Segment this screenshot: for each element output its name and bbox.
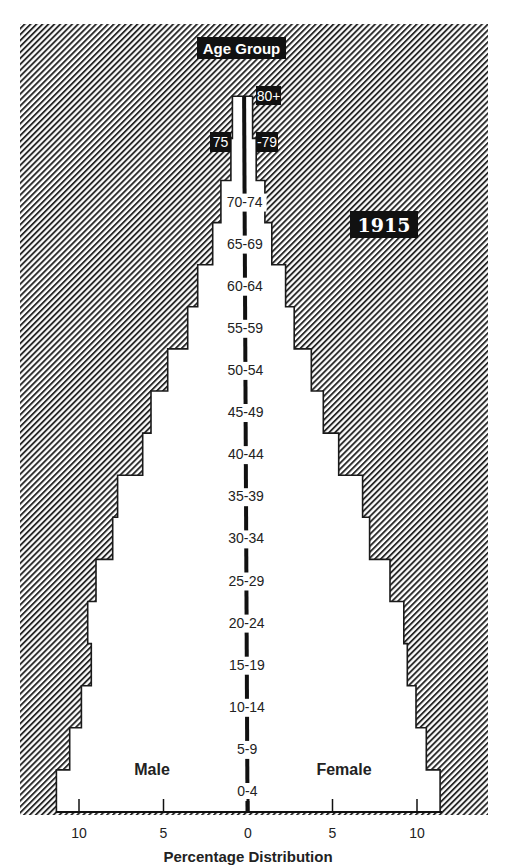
svg-text:-79: -79 (257, 134, 277, 150)
label-80-plus: 80+ (256, 86, 281, 105)
year-label: 1915 (350, 211, 418, 238)
age-label-25-29: 25-29 (228, 573, 264, 589)
age-label-10-14: 10-14 (229, 699, 265, 715)
age-label-5-9: 5-9 (237, 741, 257, 757)
age-label-15-19: 15-19 (229, 657, 265, 673)
age-label-0-4: 0-4 (237, 783, 257, 799)
x-tick-label: 5 (160, 825, 168, 841)
age-axis: 0-45-910-1415-1920-2425-2930-3435-3940-4… (223, 96, 270, 812)
age-label-45-49: 45-49 (228, 404, 264, 420)
age-group-header-text: Age Group (203, 40, 281, 57)
age-label-55-59: 55-59 (227, 320, 263, 336)
x-tick-label: 5 (329, 825, 337, 841)
age-label-60-64: 60-64 (227, 278, 263, 294)
age-label-20-24: 20-24 (229, 615, 265, 631)
age-label-70-74: 70-74 (227, 194, 263, 210)
age-label-50-54: 50-54 (227, 362, 263, 378)
age-label-35-39: 35-39 (228, 488, 264, 504)
svg-text:75: 75 (213, 134, 229, 150)
age-label-65-69: 65-69 (227, 236, 263, 252)
x-tick-label: 10 (409, 825, 425, 841)
year-text: 1915 (358, 214, 411, 236)
male-label: Male (134, 761, 170, 778)
female-label: Female (316, 761, 371, 778)
population-pyramid-chart: 0-45-910-1415-1920-2425-2930-3435-3940-4… (0, 0, 517, 865)
x-tick-label: 0 (244, 825, 252, 841)
age-label-40-44: 40-44 (228, 446, 264, 462)
age-group-header: Age Group (197, 37, 286, 59)
x-tick-label: 10 (71, 825, 87, 841)
x-axis-title: Percentage Distribution (163, 848, 332, 865)
svg-text:80+: 80+ (257, 88, 281, 104)
age-label-30-34: 30-34 (228, 530, 264, 546)
